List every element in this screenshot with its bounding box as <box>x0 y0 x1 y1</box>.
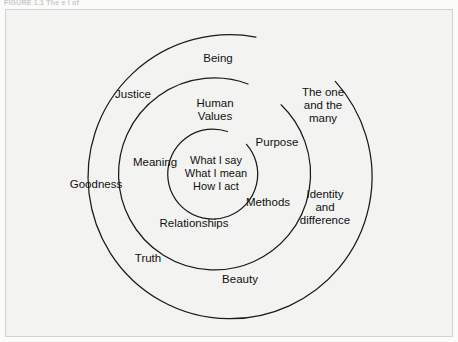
outer-label-justice: Justice <box>115 88 151 102</box>
core-label-what-i-say: What I say <box>190 154 242 167</box>
outer-label-being: Being <box>203 52 232 66</box>
outer-label-identity-and-difference: Identity and difference <box>300 188 350 227</box>
middle-label-methods: Methods <box>246 196 290 210</box>
outer-label-goodness: Goodness <box>70 178 122 192</box>
middle-label-human-values: Human Values <box>196 97 233 123</box>
middle-label-relationships: Relationships <box>159 217 228 231</box>
outer-label-beauty: Beauty <box>222 273 258 287</box>
outer-label-one-and-many: The one and the many <box>302 86 344 125</box>
core-label-how-i-act: How I act <box>193 180 239 193</box>
core-label-what-i-mean: What I mean <box>185 167 247 180</box>
middle-label-meaning: Meaning <box>133 156 177 170</box>
middle-label-purpose: Purpose <box>256 136 299 150</box>
figure-canvas: FIGURE 1.1 The e l of Being Justice Good… <box>0 0 458 342</box>
outer-label-truth: Truth <box>135 252 161 266</box>
